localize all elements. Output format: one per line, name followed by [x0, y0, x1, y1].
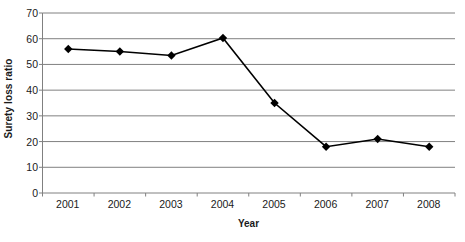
data-point-marker	[64, 45, 72, 53]
x-tick-label: 2003	[159, 198, 182, 210]
line-chart: Surety loss ratio 010203040506070 200120…	[0, 0, 465, 242]
x-axis-title: Year	[42, 218, 455, 229]
x-tick-label: 2005	[262, 198, 285, 210]
gridlines	[43, 13, 456, 167]
data-point-markers	[64, 34, 433, 151]
x-axis-tick-marks	[43, 193, 456, 197]
axis-lines	[39, 13, 455, 193]
x-tick-label: 2007	[365, 198, 388, 210]
data-point-marker	[167, 51, 175, 59]
x-tick-label: 2008	[417, 198, 440, 210]
data-point-marker	[425, 143, 433, 151]
x-tick-label: 2006	[314, 198, 337, 210]
x-tick-label: 2002	[108, 198, 131, 210]
x-axis-tick-labels: 20012002200320042005200620072008	[42, 198, 455, 214]
x-tick-label: 2001	[56, 198, 79, 210]
data-line-series-surety-loss-ratio	[68, 38, 429, 147]
data-point-marker	[116, 47, 124, 55]
x-tick-label: 2004	[211, 198, 234, 210]
